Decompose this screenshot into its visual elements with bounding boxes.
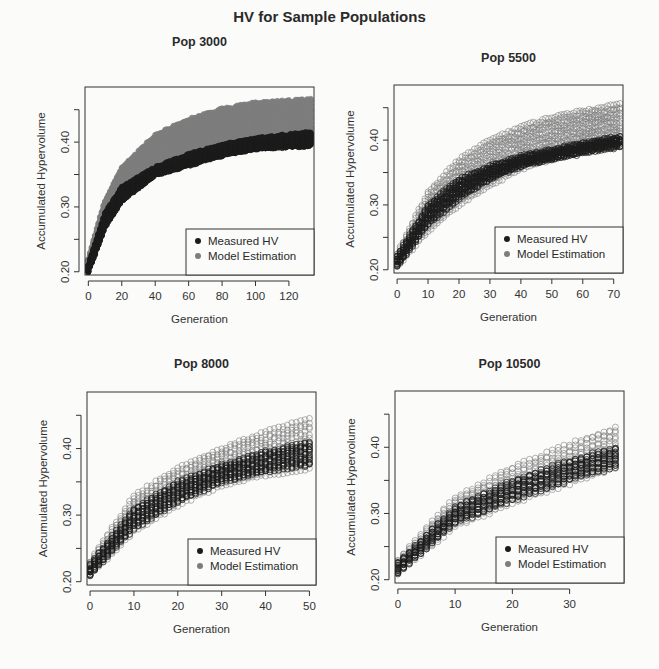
- legend-label: Model Estimation: [518, 558, 606, 570]
- panel-title: Pop 10500: [479, 357, 541, 371]
- chart-panel-pop-10500: Pop 105000.200.300.400102030GenerationAc…: [0, 0, 659, 669]
- y-tick-label: 0.40: [369, 436, 381, 458]
- y-tick-label: 0.30: [369, 502, 381, 524]
- legend-marker-model-icon: [505, 561, 511, 567]
- y-tick-label: 0.20: [369, 568, 381, 590]
- x-tick-label: 0: [395, 598, 401, 610]
- legend: Measured HVModel Estimation: [496, 537, 624, 583]
- legend-marker-measured-icon: [505, 546, 511, 552]
- y-axis-label: Accumulated Hypervolume: [345, 418, 357, 555]
- x-tick-label: 10: [449, 598, 462, 610]
- legend-label: Measured HV: [518, 543, 589, 555]
- x-tick-label: 20: [506, 598, 519, 610]
- x-axis-label: Generation: [481, 621, 538, 633]
- x-tick-label: 30: [563, 598, 576, 610]
